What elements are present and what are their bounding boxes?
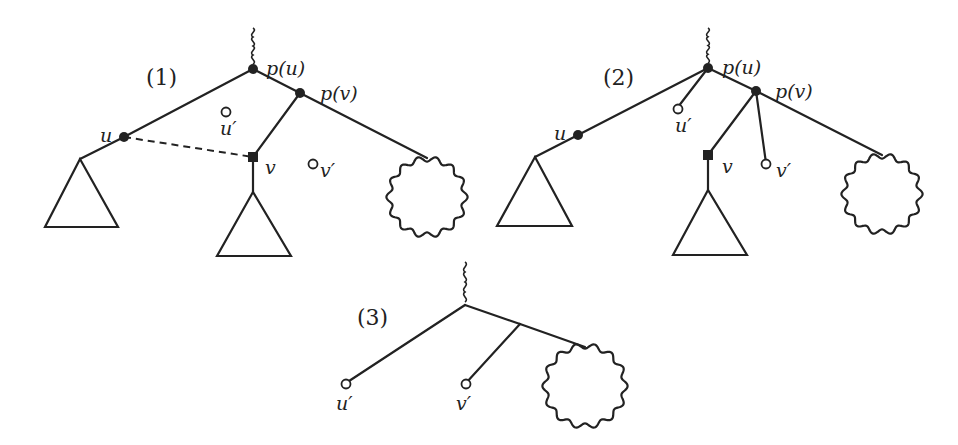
node-label: u [554, 122, 566, 144]
root-connector-wiggle [707, 28, 710, 63]
hollow-node-v-prime [762, 160, 771, 169]
hollow-node-v-prime [309, 160, 318, 169]
tree-edge [466, 324, 520, 383]
node-label: u′ [220, 117, 237, 139]
hollow-node-u-prime [342, 380, 351, 389]
figure-2: (2)p(u)p(v)uu′vv′ [497, 28, 923, 255]
root-connector-wiggle [252, 28, 255, 64]
node-label: v′ [456, 392, 472, 414]
figure-label: (3) [357, 305, 388, 330]
subtree-triangle [45, 159, 118, 227]
wavy-subtree-blob [841, 154, 922, 233]
dashed-edge [124, 137, 253, 157]
hollow-node-v-prime [462, 380, 471, 389]
filled-node-pu [248, 64, 258, 74]
figure-label: (2) [603, 65, 634, 90]
filled-node-pv [295, 88, 305, 98]
node-label: v′ [776, 159, 792, 181]
wavy-subtree-blob [386, 157, 467, 236]
node-label: u′ [675, 114, 692, 136]
figure-label: (1) [146, 65, 177, 90]
node-label: p(v) [775, 80, 813, 102]
node-label: v [722, 155, 733, 177]
node-label: v [265, 156, 276, 178]
node-label: u [100, 124, 112, 146]
node-label: u′ [336, 392, 353, 414]
tree-edge [678, 68, 708, 107]
filled-node-u [119, 132, 129, 142]
hollow-node-u-prime [674, 105, 683, 114]
node-label: p(v) [320, 82, 358, 104]
tree-edge [708, 91, 756, 155]
node-label: p(u) [722, 56, 761, 78]
node-label: v′ [320, 159, 336, 181]
tree-edge [465, 305, 520, 324]
filled-node-pu [703, 63, 713, 73]
wavy-subtree-blob [542, 344, 627, 427]
subtree-triangle [673, 190, 747, 255]
subtree-triangle [217, 192, 291, 256]
square-node-v [703, 150, 713, 160]
hollow-node-u-prime [222, 108, 231, 117]
node-label: p(u) [266, 57, 305, 79]
square-node-v [248, 152, 258, 162]
filled-node-u [573, 130, 583, 140]
tree-edge [253, 93, 300, 157]
figure-1: (1)p(u)p(v)uu′vv′ [45, 28, 468, 256]
root-connector-wiggle [464, 262, 467, 302]
figure-3: (3)u′v′ [336, 262, 628, 428]
subtree-triangle [497, 157, 572, 226]
filled-node-pv [751, 86, 761, 96]
diagram-canvas: (1)p(u)p(v)uu′vv′ (2)p(u)p(v)uu′vv′ (3)u… [0, 0, 958, 445]
tree-edge [756, 91, 766, 163]
